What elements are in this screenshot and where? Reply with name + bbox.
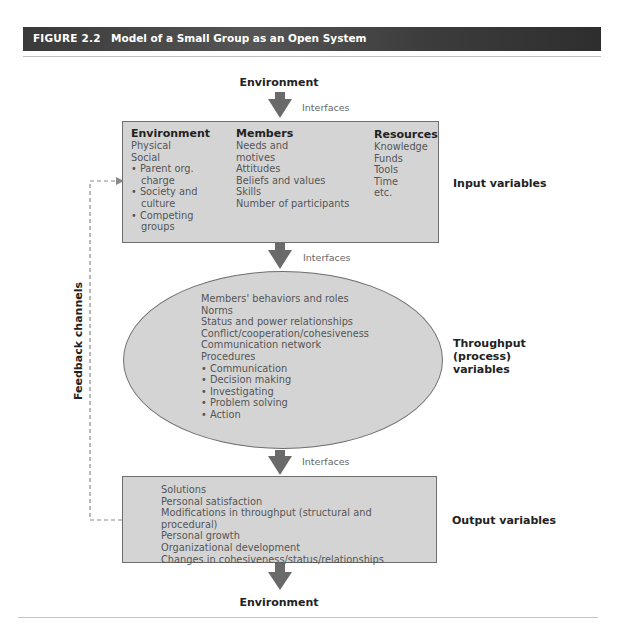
bullet-item: • Investigating bbox=[201, 386, 421, 398]
list-item: Norms bbox=[201, 305, 421, 317]
output-list: Solutions Personal satisfaction Modifica… bbox=[161, 484, 431, 565]
arrow-down-icon bbox=[268, 92, 292, 118]
input-column-members: Members Needs and motives Attitudes Beli… bbox=[236, 128, 356, 210]
throughput-variables-label: Throughput (process) variables bbox=[453, 337, 526, 376]
list-item: Physical bbox=[131, 140, 231, 152]
list-item: Changes in cohesiveness/status/relations… bbox=[161, 554, 431, 566]
bullet-item: • Decision making bbox=[201, 374, 421, 386]
interfaces-label-2: Interfaces bbox=[303, 252, 350, 263]
list-item: Funds bbox=[374, 153, 438, 165]
interfaces-label-3: Interfaces bbox=[302, 456, 349, 467]
list-item: Members' behaviors and roles bbox=[201, 293, 421, 305]
bullet-item: • Parent org. charge bbox=[131, 163, 203, 186]
list-item: Beliefs and values bbox=[236, 175, 356, 187]
list-item: Communication network bbox=[201, 339, 421, 351]
arrow-down-icon bbox=[268, 450, 292, 475]
environment-bottom-label: Environment bbox=[219, 596, 339, 609]
list-item: Number of participants bbox=[236, 198, 356, 210]
list-item: Social bbox=[131, 152, 231, 164]
list-item: Needs and motives bbox=[236, 140, 296, 163]
list-item: Skills bbox=[236, 186, 356, 198]
list-item: Personal growth bbox=[161, 530, 431, 542]
list-item: Knowledge bbox=[374, 141, 438, 153]
column-heading: Environment bbox=[131, 128, 231, 140]
list-item: Modifications in throughput (structural … bbox=[161, 507, 431, 530]
arrow-down-icon bbox=[268, 243, 292, 269]
throughput-list: Members' behaviors and roles Norms Statu… bbox=[201, 293, 421, 421]
column-heading: Members bbox=[236, 128, 356, 140]
column-heading: Resources bbox=[374, 129, 438, 141]
list-item: Solutions bbox=[161, 484, 431, 496]
bullet-item: • Communication bbox=[201, 363, 421, 375]
input-variables-label: Input variables bbox=[453, 177, 547, 190]
output-variables-label: Output variables bbox=[452, 514, 556, 527]
bullet-item: • Society and culture bbox=[131, 186, 203, 209]
input-column-resources: Resources Knowledge Funds Tools Time etc… bbox=[374, 129, 438, 199]
list-item: Procedures bbox=[201, 351, 421, 363]
list-item: Organizational development bbox=[161, 542, 431, 554]
list-item: Tools bbox=[374, 164, 438, 176]
list-item: Conflict/cooperation/cohesiveness bbox=[201, 328, 421, 340]
interfaces-label-1: Interfaces bbox=[302, 102, 349, 113]
list-item: Time bbox=[374, 176, 438, 188]
list-item: Attitudes bbox=[236, 163, 356, 175]
list-item: Personal satisfaction bbox=[161, 496, 431, 508]
footer-rule bbox=[18, 617, 598, 618]
list-item: etc. bbox=[374, 187, 438, 199]
arrow-down-icon bbox=[268, 562, 292, 590]
input-column-environment: Environment Physical Social • Parent org… bbox=[131, 128, 231, 233]
feedback-channels-label: Feedback channels bbox=[72, 282, 85, 400]
feedback-path bbox=[90, 181, 122, 520]
list-item: Status and power relationships bbox=[201, 316, 421, 328]
bullet-item: • Problem solving bbox=[201, 397, 421, 409]
bullet-item: • Competing groups bbox=[131, 210, 203, 233]
bullet-item: • Action bbox=[201, 409, 421, 421]
